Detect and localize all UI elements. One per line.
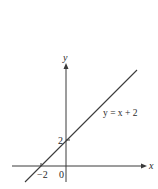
x-intercept-label: −2 bbox=[37, 169, 48, 180]
x-axis-label: x bbox=[148, 160, 154, 171]
line-y-equals-x-plus-2 bbox=[25, 70, 137, 182]
graph: y x 2 −2 0 y = x + 2 bbox=[0, 0, 158, 189]
y-intercept-label: 2 bbox=[58, 135, 63, 146]
y-axis-arrow-icon bbox=[64, 63, 69, 69]
y-axis-label: y bbox=[62, 52, 68, 63]
origin-label: 0 bbox=[59, 169, 64, 180]
equation-label: y = x + 2 bbox=[103, 108, 138, 118]
x-axis-arrow-icon bbox=[141, 164, 147, 169]
